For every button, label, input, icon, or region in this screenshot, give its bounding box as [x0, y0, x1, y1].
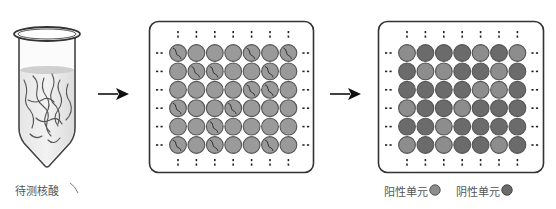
well: [188, 118, 205, 135]
well: [280, 118, 297, 135]
well: [243, 118, 260, 135]
well: [417, 100, 434, 117]
label-pointer-icon: [70, 183, 78, 193]
well: [280, 63, 297, 80]
well: [509, 45, 526, 62]
well: [491, 100, 508, 117]
well: [435, 118, 452, 135]
well: [188, 63, 205, 80]
well: [399, 63, 416, 80]
right-arrow-icon: [98, 88, 129, 100]
well: [188, 81, 205, 98]
well: [225, 63, 242, 80]
well: [170, 100, 187, 117]
well: [399, 100, 416, 117]
well: [206, 45, 223, 62]
well: [472, 45, 489, 62]
well: [399, 45, 416, 62]
well: [491, 63, 508, 80]
well: [170, 63, 187, 80]
well: [399, 137, 416, 154]
diagram-canvas: [0, 0, 556, 209]
test-tube-icon: [14, 27, 80, 167]
well: [491, 45, 508, 62]
well: [509, 81, 526, 98]
negative-swatch-icon: [502, 185, 512, 195]
positive-legend-label: 阳性单元: [384, 183, 428, 199]
well: [170, 137, 187, 154]
well: [188, 45, 205, 62]
well: [262, 45, 279, 62]
well: [206, 100, 223, 117]
well: [170, 45, 187, 62]
well: [225, 45, 242, 62]
well: [472, 81, 489, 98]
well: [206, 137, 223, 154]
well: [188, 137, 205, 154]
well: [435, 63, 452, 80]
well: [225, 100, 242, 117]
well: [454, 100, 471, 117]
well: [243, 100, 260, 117]
well: [262, 118, 279, 135]
well: [399, 118, 416, 135]
well: [417, 81, 434, 98]
well: [509, 63, 526, 80]
well: [454, 81, 471, 98]
well: [262, 100, 279, 117]
well: [399, 81, 416, 98]
well: [509, 100, 526, 117]
well: [417, 118, 434, 135]
well: [491, 81, 508, 98]
well: [435, 137, 452, 154]
well: [170, 81, 187, 98]
well: [454, 45, 471, 62]
well: [243, 81, 260, 98]
negative-legend-label: 阴性单元: [456, 183, 500, 199]
well: [435, 45, 452, 62]
well: [472, 137, 489, 154]
well: [454, 63, 471, 80]
well: [225, 81, 242, 98]
partition-plate-wells: [156, 31, 309, 166]
well: [417, 63, 434, 80]
well: [206, 81, 223, 98]
well: [262, 63, 279, 80]
well: [225, 118, 242, 135]
well: [491, 118, 508, 135]
well: [472, 63, 489, 80]
well: [435, 100, 452, 117]
well: [509, 137, 526, 154]
well: [454, 118, 471, 135]
well: [417, 137, 434, 154]
well: [509, 118, 526, 135]
well: [188, 100, 205, 117]
well: [280, 100, 297, 117]
well: [491, 137, 508, 154]
well: [280, 137, 297, 154]
well: [262, 81, 279, 98]
well: [243, 45, 260, 62]
well: [225, 137, 242, 154]
well: [280, 45, 297, 62]
well: [472, 118, 489, 135]
well: [454, 137, 471, 154]
well: [206, 118, 223, 135]
well: [472, 100, 489, 117]
well: [243, 137, 260, 154]
right-arrow-icon: [330, 88, 361, 100]
well: [417, 45, 434, 62]
well: [206, 63, 223, 80]
result-plate-wells: [385, 31, 538, 166]
sample-label: 待测核酸: [15, 182, 59, 198]
positive-swatch-icon: [430, 185, 440, 195]
well: [280, 81, 297, 98]
well: [262, 137, 279, 154]
well: [170, 118, 187, 135]
well: [435, 81, 452, 98]
well: [243, 63, 260, 80]
